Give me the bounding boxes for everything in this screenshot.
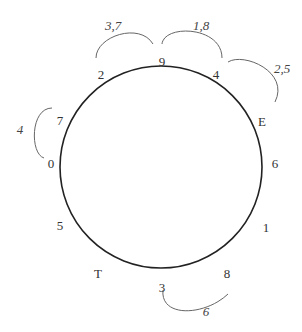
connector-arc — [163, 290, 228, 311]
main-circle — [60, 66, 262, 268]
node-label: T — [94, 266, 102, 281]
node-label: 8 — [224, 266, 231, 281]
node-label: 3 — [159, 280, 166, 295]
connector-arc — [96, 33, 153, 58]
node-label: 7 — [57, 113, 64, 128]
node-label: 1 — [263, 220, 270, 235]
node-label: E — [258, 114, 266, 129]
connector-arc — [162, 31, 222, 58]
node-label: 5 — [57, 218, 64, 233]
diagram-canvas: 3,71,82,546924E70651T83 — [0, 0, 302, 332]
node-label: 4 — [213, 67, 220, 82]
node-label: 2 — [98, 67, 105, 82]
node-label: 9 — [159, 54, 166, 69]
arc-label: 6 — [203, 304, 210, 319]
arc-label: 3,7 — [104, 18, 122, 33]
arc-label: 2,5 — [274, 61, 291, 76]
connector-arc — [228, 59, 278, 102]
ring-diagram: 3,71,82,546924E70651T83 — [0, 0, 302, 332]
node-label: 6 — [272, 156, 279, 171]
arc-label: 4 — [17, 122, 24, 137]
arc-label: 1,8 — [193, 18, 210, 33]
node-label: 0 — [48, 156, 55, 171]
connector-arc — [34, 108, 52, 158]
